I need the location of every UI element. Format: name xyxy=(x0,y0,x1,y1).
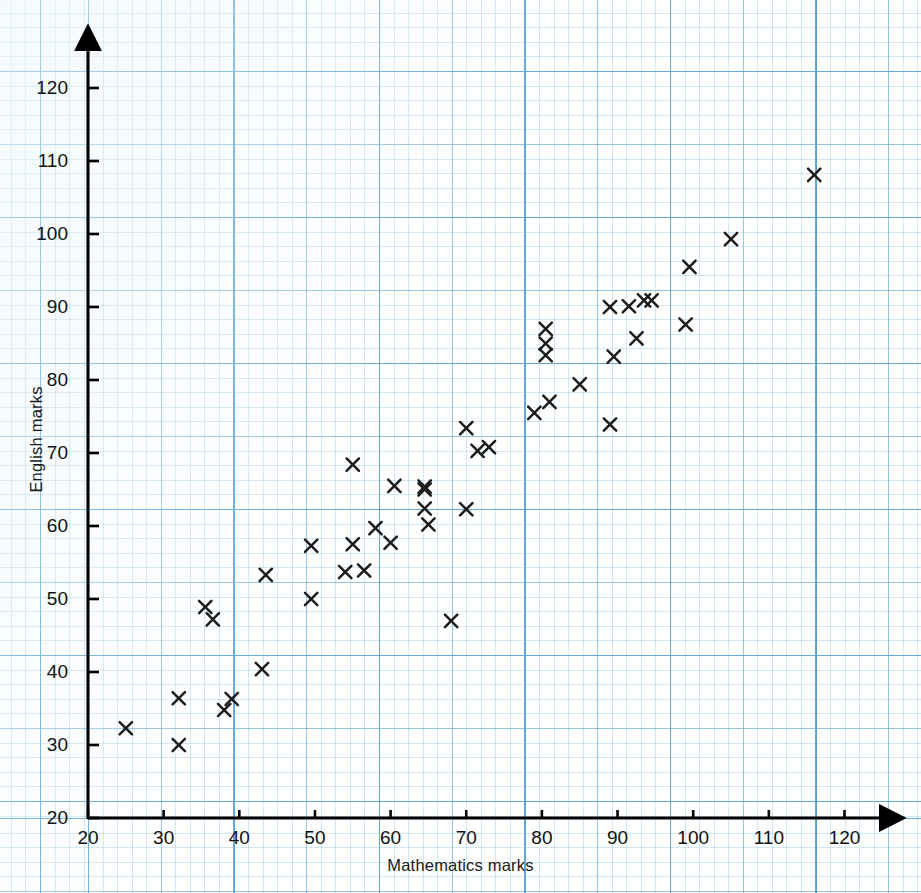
x-tick-label: 40 xyxy=(229,827,250,849)
plot-canvas xyxy=(0,0,921,893)
y-tick-label: 40 xyxy=(20,661,68,683)
y-tick-label: 110 xyxy=(20,150,68,172)
x-tick-label: 30 xyxy=(153,827,174,849)
tick-marks xyxy=(87,88,845,819)
x-tick-label: 20 xyxy=(77,827,98,849)
x-tick-label: 50 xyxy=(304,827,325,849)
x-tick-label: 60 xyxy=(380,827,401,849)
x-tick-label: 100 xyxy=(677,827,709,849)
x-axis-title: Mathematics marks xyxy=(0,856,921,875)
x-tick-label: 90 xyxy=(607,827,628,849)
y-tick-label: 30 xyxy=(20,734,68,756)
y-tick-label: 20 xyxy=(20,807,68,829)
y-tick-label: 120 xyxy=(20,77,68,99)
y-tick-label: 50 xyxy=(20,588,68,610)
x-tick-label: 110 xyxy=(754,827,784,849)
y-axis-title: English marks xyxy=(27,330,46,550)
y-tick-label: 90 xyxy=(20,296,68,318)
axes-group xyxy=(88,48,882,818)
data-points-group xyxy=(120,169,821,752)
scatter-plot-figure: 2030405060708090100110120 20304050607080… xyxy=(0,0,921,893)
x-tick-label: 120 xyxy=(829,827,861,849)
x-tick-label: 70 xyxy=(456,827,477,849)
x-tick-label: 80 xyxy=(531,827,552,849)
y-tick-label: 100 xyxy=(20,223,68,245)
